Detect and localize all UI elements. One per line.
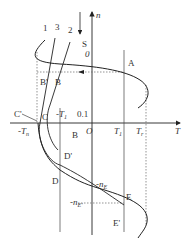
point-b-prime-label: B' xyxy=(40,78,48,87)
point-d-label: D xyxy=(52,177,59,186)
point-d-prime-label: D' xyxy=(64,152,72,161)
curve-label-2: 2 xyxy=(68,26,73,35)
tr-label: Tr xyxy=(136,127,143,139)
point-c-prime-label: C' xyxy=(14,110,22,119)
curve-label-3: 3 xyxy=(55,23,60,32)
n-axis-label: n xyxy=(96,11,101,20)
s-label: S xyxy=(82,40,87,49)
diagram-canvas xyxy=(0,0,193,248)
neg-ne-prime-label: -nE' xyxy=(70,198,82,210)
region-b-label: B xyxy=(72,131,78,140)
t-axis-label: T xyxy=(175,127,180,136)
curve-label-1: 1 xyxy=(43,24,48,33)
point-e-prime-label: E' xyxy=(113,219,120,228)
curve-2 xyxy=(47,42,70,150)
c-prime-leader xyxy=(22,114,37,121)
zero-point-label: 0 xyxy=(85,50,90,59)
point-one-label: 0.1 xyxy=(77,110,88,119)
t1-label: T1 xyxy=(114,127,122,139)
neg-t1-label: -T1 xyxy=(56,110,67,122)
left-arrow-icon xyxy=(78,70,84,74)
point-b-label: B xyxy=(55,78,61,87)
point-c-label: C xyxy=(42,113,48,122)
point-e-label: E xyxy=(126,193,132,202)
neg-ne-label: -nE xyxy=(96,180,107,192)
origin-label: O xyxy=(86,127,93,136)
neg-tn-label: -Tn xyxy=(18,127,29,139)
point-a-label: A xyxy=(128,59,135,68)
